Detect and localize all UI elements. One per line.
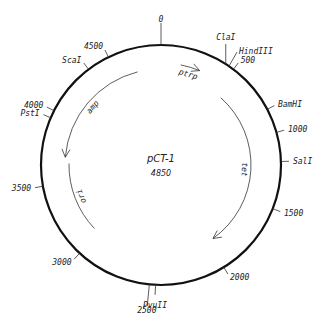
- feature-label-tet: tet: [239, 162, 249, 177]
- plasmid-map: 050010001500200025003000350040004500 Cla…: [0, 0, 322, 331]
- tick-mark-4500: [105, 50, 109, 57]
- tick-label-0: 0: [159, 15, 164, 24]
- tick-label-4500: 4500: [84, 42, 103, 51]
- tick-label-3000: 3000: [51, 258, 71, 267]
- tick-label-1500: 1500: [284, 209, 303, 218]
- tick-mark-4000: [47, 107, 54, 111]
- feature-arc-amp: [65, 72, 137, 157]
- site-label-HindIII: HindIII: [238, 47, 273, 56]
- features: ptrptetampori: [62, 64, 251, 239]
- tick-mark-1500: [273, 209, 280, 212]
- site-marker-ScaI: [84, 63, 89, 69]
- site-label-ScaI: ScaI: [62, 56, 81, 65]
- site-label-BamHI: BamHI: [278, 100, 302, 109]
- site-label-PvuII: PvuII: [143, 301, 167, 310]
- feature-label-amp: amp: [85, 99, 101, 116]
- plasmid-name: pCT-1: [146, 153, 175, 164]
- tick-mark-3000: [74, 253, 79, 259]
- scale-ticks: 050010001500200025003000350040004500: [11, 15, 308, 315]
- tick-mark-1000: [276, 130, 284, 132]
- tick-label-1000: 1000: [288, 125, 307, 134]
- plasmid-size: 4850: [151, 169, 171, 178]
- tick-mark-500: [233, 63, 238, 69]
- site-label-PstI: PstI: [20, 109, 39, 118]
- tick-mark-2000: [224, 267, 228, 274]
- tick-mark-3500: [35, 186, 43, 187]
- tick-label-500: 500: [241, 56, 256, 65]
- site-marker-BamHI: [267, 106, 274, 110]
- site-marker-HindIII: [229, 52, 237, 66]
- site-label-ClaI: ClaI: [216, 33, 235, 42]
- tick-label-2000: 2000: [230, 273, 249, 282]
- site-label-SalI: SalI: [293, 157, 312, 166]
- tick-label-3500: 3500: [11, 184, 31, 193]
- site-marker-PstI: [43, 115, 50, 118]
